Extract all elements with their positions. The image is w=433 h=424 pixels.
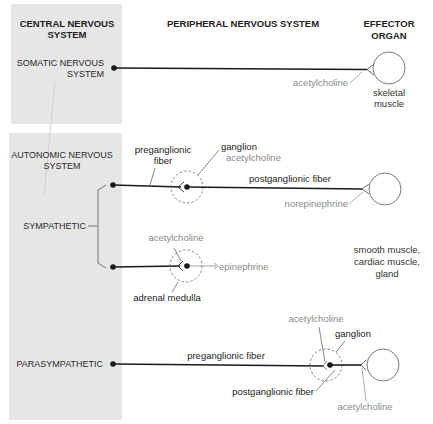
visceral-effector-line3: gland — [375, 268, 398, 279]
adrenal-output: epinephrine — [219, 261, 269, 272]
parasympathetic-postganglionic-label: postganglionic fiber — [232, 386, 314, 397]
sympathetic-preganglionic-line1: preganglionic — [135, 144, 192, 155]
cns-panel-autonomic — [9, 133, 122, 420]
parasympathetic-label: PARASYMPATHETIC — [16, 359, 103, 369]
parasympathetic-ganglion-label: ganglion — [335, 328, 371, 339]
sympathetic-preganglionic-line2: fiber — [154, 155, 172, 166]
parasympathetic-postganglionic-pointer — [316, 370, 335, 391]
sympathetic-ganglion-label: ganglion — [221, 141, 257, 152]
somatic-fiber — [114, 68, 367, 70]
effector-header-line1: EFFECTOR — [363, 18, 414, 29]
sympathetic-label: SYMPATHETIC — [23, 221, 86, 231]
preganglionic-pointer — [150, 168, 155, 185]
norepinephrine-pointer — [349, 192, 363, 204]
adrenal-label-pointer — [172, 282, 178, 292]
adrenal-medulla-label: adrenal medulla — [133, 292, 201, 303]
cns-header-line1: CENTRAL NERVOUS — [20, 18, 115, 29]
autonomic-label-line2: SYSTEM — [43, 161, 80, 171]
sympathetic-effector-circle — [369, 173, 401, 205]
parasympathetic-ganglion-synapse-icon — [323, 361, 327, 370]
adrenal-transmitter: acetylcholine — [149, 232, 204, 243]
autonomic-label-line1: AUTONOMIC NERVOUS — [11, 150, 113, 160]
sympathetic-ganglion-pointer — [198, 150, 219, 175]
somatic-transmitter-pointer — [350, 72, 362, 83]
sympathetic-ganglion-transmitter: acetylcholine — [226, 152, 281, 163]
parasympathetic-preganglionic-fiber — [113, 364, 324, 366]
somatic-label-line2: SYSTEM — [67, 69, 104, 79]
sympathetic-postganglionic-fiber — [187, 187, 362, 189]
sympathetic-effector-transmitter: norepinephrine — [285, 198, 348, 209]
parasympathetic-effector-transmitter: acetylcholine — [338, 401, 393, 412]
visceral-effector-line2: cardiac muscle, — [354, 256, 420, 267]
sympathetic-effector-synapse-icon — [362, 184, 369, 194]
somatic-label-line1: SOMATIC NERVOUS — [17, 58, 104, 68]
somatic-transmitter: acetylcholine — [293, 77, 348, 88]
skeletal-muscle-line1: skeletal — [373, 87, 405, 98]
cns-header-line2: SYSTEM — [47, 29, 86, 40]
parasympathetic-ganglion-pointer — [336, 341, 345, 352]
parasympathetic-effector-pointer — [362, 368, 366, 401]
skeletal-muscle-circle — [373, 52, 405, 84]
parasympathetic-ganglion-transmitter-pointer — [319, 327, 325, 362]
parasympathetic-ganglion-transmitter: acetylcholine — [289, 313, 344, 324]
parasympathetic-preganglionic-label: preganglionic fiber — [187, 350, 265, 361]
adrenal-transmitter-pointer — [174, 248, 181, 261]
pns-header: PERIPHERAL NERVOUS SYSTEM — [167, 18, 319, 29]
sympathetic-postganglionic-label: postganglionic fiber — [249, 173, 331, 184]
visceral-effector-line1: smooth muscle, — [354, 244, 421, 255]
effector-header-line2: ORGAN — [371, 30, 407, 41]
adrenal-cell — [184, 263, 190, 269]
skeletal-muscle-line2: muscle — [374, 98, 404, 109]
parasympathetic-effector-circle — [367, 349, 399, 381]
nervous-system-diagram: CENTRAL NERVOUS SYSTEM PERIPHERAL NERVOU… — [0, 0, 433, 424]
